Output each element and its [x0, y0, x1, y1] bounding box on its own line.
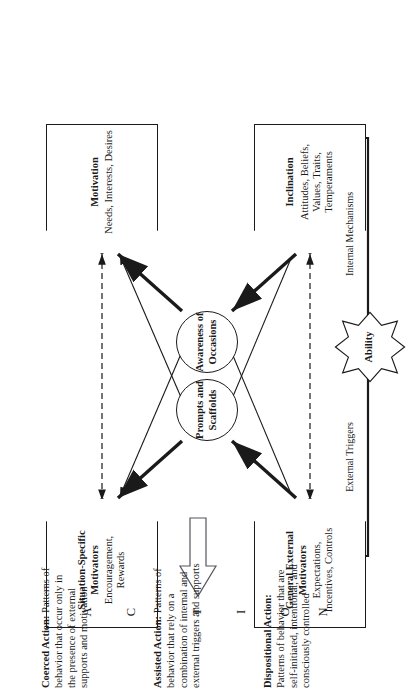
- edge-prompts-to-situation: [118, 441, 182, 498]
- definition-assisted-action: Assisted Action: Patterns of behavior th…: [152, 560, 203, 688]
- edge-label-text: Internal Mechanisms: [344, 192, 355, 276]
- node-ability[interactable]: Ability: [334, 311, 402, 383]
- edge-label-internal-mechanisms: Internal Mechanisms: [344, 186, 356, 282]
- node-motivation[interactable]: Motivation Needs, Interests, Desires: [46, 124, 158, 254]
- letter: I: [234, 610, 248, 614]
- node-subtitle: Needs, Interests, Desires: [103, 130, 115, 234]
- definition-term: Assisted Action:: [152, 616, 163, 688]
- definition-term: Coerced Action:: [40, 616, 51, 688]
- edge-label-external-triggers: External Triggers: [344, 412, 356, 502]
- node-subtitle: Expectations, Incentives, Controls: [311, 518, 336, 622]
- node-label: Prompts and Scaffolds: [194, 380, 219, 440]
- node-title: General External Motivators: [284, 518, 309, 622]
- node-prompts-and-scaffolds[interactable]: Prompts and Scaffolds: [176, 379, 238, 441]
- node-subtitle: Encouragement, Rewards: [103, 518, 128, 622]
- node-title: Situation-Specific Motivators: [76, 518, 101, 622]
- edge-inclination-to-awareness: [232, 254, 296, 311]
- diagram-canvas: Motivation (top row) --> Inclination (bo…: [0, 0, 412, 694]
- node-label: Situation-Specific Motivators Encouragem…: [76, 498, 128, 628]
- node-title: Motivation: [89, 130, 101, 234]
- edge-general-to-prompts: [232, 441, 296, 498]
- node-label: Ability: [363, 332, 374, 363]
- node-awareness-of-occasions[interactable]: Awareness of Occasions: [176, 311, 238, 373]
- definition-term: Dispositional Action:: [262, 594, 273, 688]
- node-label: Awareness of Occasions: [194, 312, 219, 372]
- node-subtitle: Attitudes, Beliefs, Values, Traits, Temp…: [299, 130, 336, 234]
- node-title: Inclination: [284, 130, 296, 234]
- node-label: General External Motivators Expectations…: [284, 498, 336, 628]
- node-label: Inclination Attitudes, Beliefs, Values, …: [284, 124, 336, 254]
- edge-label-text: External Triggers: [344, 422, 355, 492]
- acrostic-letter-i: I: [234, 604, 249, 620]
- node-label: Motivation Needs, Interests, Desires: [89, 124, 116, 254]
- edge-awareness-to-motivation: [118, 254, 182, 311]
